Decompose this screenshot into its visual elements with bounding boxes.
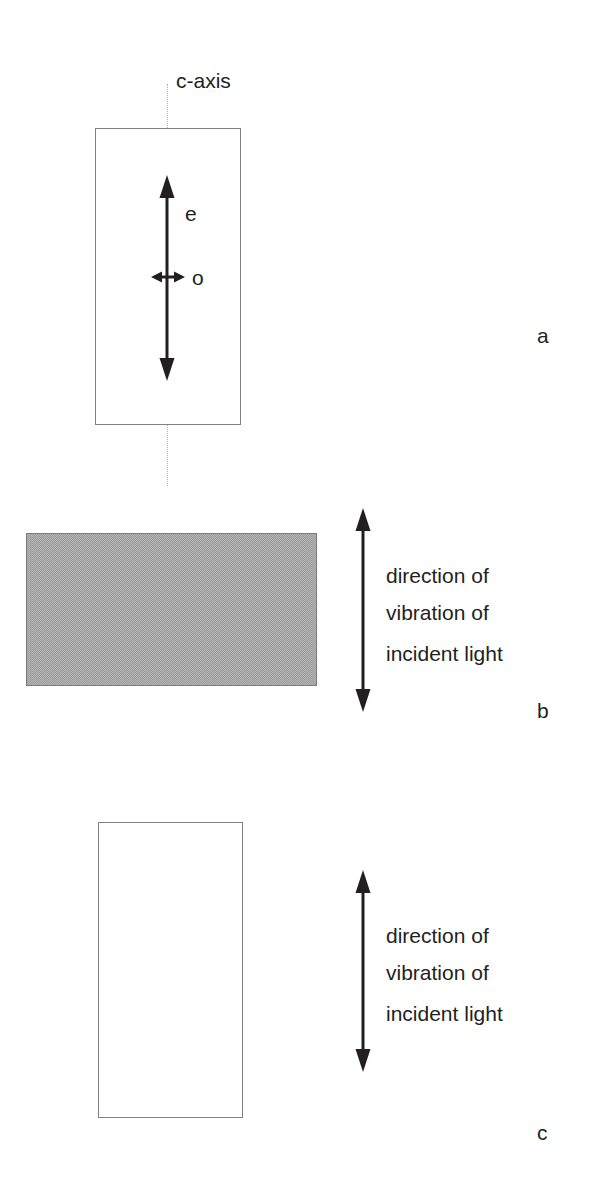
crystal-rectangle-c bbox=[98, 822, 243, 1118]
vibration-direction-arrow-c bbox=[346, 865, 380, 1077]
panel-c: direction of vibration of incident light… bbox=[0, 0, 592, 1201]
vibration-caption-c-line-2: vibration of bbox=[386, 962, 489, 983]
panel-letter-c: c bbox=[537, 1122, 548, 1143]
polarization-figure: c-axis e o a dire bbox=[0, 0, 592, 1201]
vibration-caption-c-line-3: incident light bbox=[386, 1003, 503, 1024]
vibration-caption-c-line-1: direction of bbox=[386, 925, 489, 946]
